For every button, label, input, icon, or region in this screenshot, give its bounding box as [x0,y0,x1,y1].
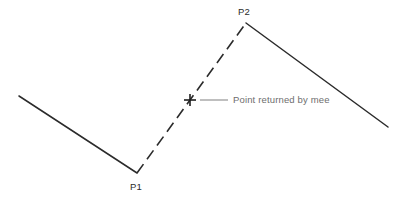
right-solid-segment [246,23,388,127]
diagram-canvas: P1 P2 Point returned by mee [0,0,404,203]
cross-marker-icon [184,94,196,106]
label-p2: P2 [238,6,250,17]
label-p1: P1 [130,181,142,192]
dashed-segment-p1-p2 [137,23,246,173]
label-point-returned: Point returned by mee [233,94,330,105]
left-solid-segment [19,96,137,173]
line-intersection-diagram: P1 P2 Point returned by mee [0,0,404,203]
